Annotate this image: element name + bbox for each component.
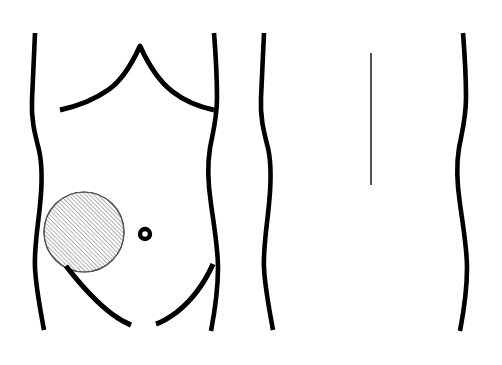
canvas-background	[0, 0, 502, 365]
anatomical-diagram	[0, 0, 502, 365]
figure-canvas	[0, 0, 502, 365]
